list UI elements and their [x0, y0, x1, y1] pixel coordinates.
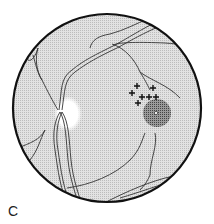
optic-disc: [54, 96, 82, 132]
panel-label: C: [8, 203, 18, 219]
fundus-diagram: [0, 0, 214, 224]
fovea: [154, 111, 157, 114]
